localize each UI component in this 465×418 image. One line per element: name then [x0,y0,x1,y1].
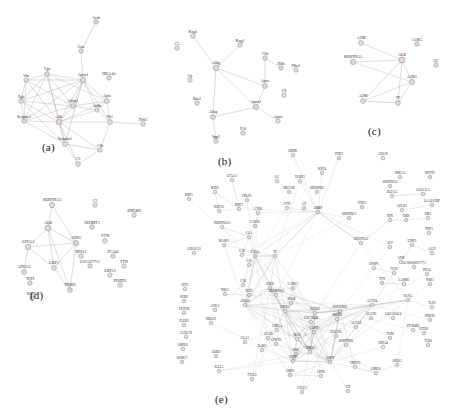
network-node[interactable]: Bac2 [193,96,201,106]
network-node[interactable]: KRT5 [185,193,193,201]
node-circle[interactable] [245,198,249,202]
network-node[interactable]: TMTU3 [350,361,361,369]
node-circle[interactable] [308,350,312,354]
network-node[interactable]: Ahsg [209,109,217,119]
node-circle[interactable] [238,43,242,47]
network-node[interactable]: KRT10 [214,205,224,213]
network-node[interactable]: SERPINA10 [214,221,231,229]
network-node[interactable]: ORM1 [289,149,298,157]
node-circle[interactable] [335,317,339,321]
network-node[interactable]: TLN2 [390,267,398,275]
network-node[interactable]: LGALS3BP [424,199,440,207]
network-node[interactable]: F10 [240,126,246,136]
network-node[interactable]: C5 [175,41,180,51]
node-circle[interactable] [118,283,122,287]
node-circle[interactable] [434,63,438,67]
network-node[interactable]: HSPG2 [280,305,290,313]
node-circle[interactable] [334,334,338,338]
network-node[interactable]: LOC100414 [385,312,401,320]
node-circle[interactable] [71,104,76,109]
network-node[interactable]: ACAN2 [366,312,377,320]
node-circle[interactable] [430,305,434,309]
node-circle[interactable] [411,328,415,332]
network-node[interactable]: Kng1 [236,38,245,48]
node-circle[interactable] [392,271,396,275]
node-circle[interactable] [350,59,355,64]
network-node[interactable]: TUM [386,332,393,340]
network-node[interactable]: APOL2 [392,359,402,367]
node-circle[interactable] [302,206,306,210]
node-circle[interactable] [211,115,216,120]
network-node[interactable]: CD109 [378,152,388,160]
network-node[interactable]: CYLC1 [297,386,308,394]
node-circle[interactable] [287,190,291,194]
network-node[interactable]: Serpinc1 [17,114,31,124]
node-circle[interactable] [240,253,244,257]
network-node[interactable]: FBLN1 [242,194,252,202]
node-circle[interactable] [360,205,364,209]
network-node[interactable]: C8a [262,51,269,61]
network-node[interactable]: CSPG4 [272,324,282,332]
node-circle[interactable] [399,57,405,63]
network-node[interactable]: HABP1 [295,175,306,183]
network-node[interactable]: A2M [359,93,368,103]
node-circle[interactable] [263,56,267,60]
network-node[interactable]: Kng1 [189,29,198,39]
node-circle[interactable] [187,197,191,201]
node-circle[interactable] [274,342,278,346]
node-circle[interactable] [108,120,113,125]
node-circle[interactable] [388,336,392,340]
node-circle[interactable] [320,171,324,175]
network-node[interactable]: KRT1 [235,203,243,211]
network-node[interactable]: SERU [180,295,189,303]
network-node[interactable]: LRP1 [49,260,58,270]
node-circle[interactable] [209,321,213,325]
node-circle[interactable] [256,211,260,215]
network-node[interactable]: RPS12 [75,249,86,259]
node-circle[interactable] [25,244,30,249]
network-node[interactable]: TF [273,250,277,258]
node-circle[interactable] [430,251,434,255]
node-circle[interactable] [266,336,270,340]
node-circle[interactable] [24,78,28,82]
node-circle[interactable] [283,309,287,313]
network-node[interactable]: SERPINA3 [383,180,398,188]
network-node[interactable]: HPX [387,214,394,222]
node-circle[interactable] [73,240,78,245]
network-node[interactable]: Fga [44,66,50,76]
node-circle[interactable] [260,348,264,352]
node-circle[interactable] [76,162,81,167]
network-node[interactable]: AGTAZ [351,321,362,329]
network-node[interactable]: APOA2 [18,264,31,274]
network-node[interactable]: CTSB [254,207,262,215]
node-circle[interactable] [398,175,402,179]
node-circle[interactable] [298,179,302,183]
node-circle[interactable] [213,190,217,194]
network-node[interactable]: NRG1 [221,288,230,296]
node-circle[interactable] [421,192,425,196]
network-node[interactable]: CCDC78 [180,331,192,339]
node-circle[interactable] [22,119,26,123]
node-circle[interactable] [282,93,286,97]
network-node[interactable]: LRP12 [104,268,115,278]
network-node[interactable]: BGN [294,333,301,341]
node-circle[interactable] [422,331,426,335]
network-node[interactable]: SERPINC1 [342,212,357,220]
node-circle[interactable] [217,209,221,213]
node-circle[interactable] [223,292,227,296]
node-circle[interactable] [90,225,94,229]
network-node[interactable]: LOC181 [330,330,342,338]
network-node[interactable]: Vtn [23,73,29,83]
network-node[interactable]: HBA [425,212,432,220]
node-circle[interactable] [380,281,384,285]
network-node[interactable]: MTTP1 [425,171,436,179]
network-node[interactable]: C1S [246,259,252,267]
node-circle[interactable] [316,210,320,214]
node-circle[interactable] [427,231,431,235]
network-node[interactable]: ENSP1 [369,262,379,270]
node-circle[interactable] [291,286,295,290]
network-node[interactable]: GC [275,175,279,183]
node-circle[interactable] [404,218,408,222]
network-node[interactable]: PFGG [423,268,432,276]
network-node[interactable]: ELTD1 [419,327,429,335]
